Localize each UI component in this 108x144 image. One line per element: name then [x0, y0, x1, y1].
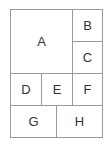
cell-a-label: A: [37, 34, 46, 49]
cell-g-label: G: [28, 114, 38, 129]
cell-c: C: [72, 41, 103, 74]
cell-d: D: [10, 73, 42, 106]
cell-e-label: E: [53, 82, 62, 97]
cell-h: H: [56, 105, 103, 138]
cell-d-label: D: [21, 82, 30, 97]
cell-e: E: [41, 73, 73, 106]
cell-b: B: [72, 9, 103, 42]
cell-c-label: C: [83, 50, 92, 65]
cell-h-label: H: [75, 114, 84, 129]
cell-g: G: [10, 105, 57, 138]
cell-b-label: B: [83, 18, 92, 33]
cell-f-label: F: [84, 82, 92, 97]
cell-a: A: [10, 9, 73, 74]
cell-f: F: [72, 73, 103, 106]
